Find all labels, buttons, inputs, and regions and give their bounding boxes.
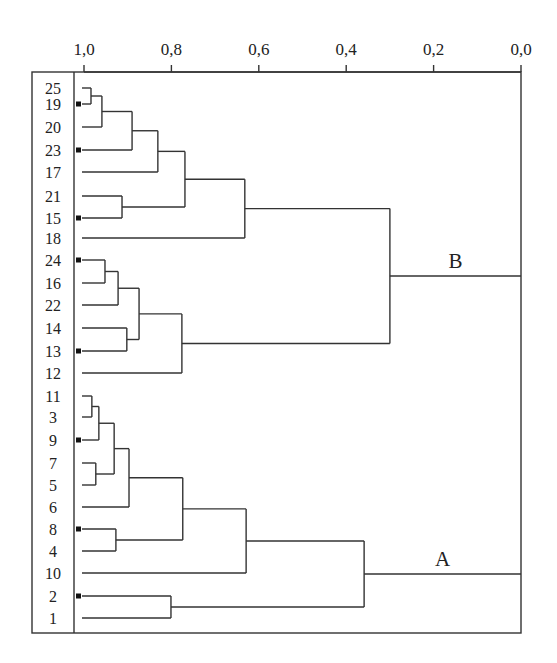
merge-m1 <box>82 88 91 104</box>
merge-m15 <box>82 463 96 485</box>
leaf-label: 25 <box>45 80 61 97</box>
leaf-label: 18 <box>45 230 61 247</box>
leaf-marker-icon <box>76 349 81 354</box>
leaf-label: 21 <box>45 188 61 205</box>
axis-tick-label: 0,4 <box>336 40 358 59</box>
merge-m7 <box>82 179 245 238</box>
leaf-label: 19 <box>45 96 61 113</box>
leaf-label: 13 <box>45 343 61 360</box>
leaf-label: 1 <box>49 610 57 627</box>
leaf-label: 12 <box>45 365 61 382</box>
leaf-label: 4 <box>49 543 57 560</box>
merge-B <box>182 209 390 344</box>
leaf-label: 14 <box>45 320 61 337</box>
merge-m3 <box>82 112 132 151</box>
merge-m17 <box>82 449 129 507</box>
merge-m21 <box>82 596 171 618</box>
cluster-label-B: B <box>448 249 462 273</box>
merge-m11 <box>118 288 139 339</box>
leaf-label: 11 <box>45 388 60 405</box>
merge-m19 <box>116 478 183 540</box>
leaf-label: 23 <box>45 142 61 159</box>
axis-tick-label: 0,8 <box>161 40 182 59</box>
merge-A <box>171 541 364 607</box>
merge-m14 <box>82 407 99 441</box>
leaf-label: 16 <box>45 275 61 292</box>
leaf-label: 17 <box>45 164 61 181</box>
cluster-label-A: A <box>435 547 451 571</box>
merge-m13 <box>82 396 92 417</box>
leaf-label: 8 <box>49 521 57 538</box>
dendrogram-tree <box>82 88 521 618</box>
leaf-label: 10 <box>45 565 61 582</box>
merge-m6 <box>122 151 185 207</box>
leaf-labels: 2519202317211518241622141312113975684102… <box>45 80 81 627</box>
axis-tick-label: 0,0 <box>510 40 531 59</box>
merge-m4 <box>82 131 158 172</box>
merge-m20 <box>82 509 246 573</box>
cluster-labels: BA <box>435 249 462 571</box>
leaf-label: 15 <box>45 210 61 227</box>
leaf-marker-icon <box>76 594 81 599</box>
axis-tick-label: 1,0 <box>73 40 94 59</box>
leaf-label: 9 <box>49 432 57 449</box>
merge-m5 <box>82 196 122 218</box>
axis-tick-label: 0,6 <box>248 40 269 59</box>
merge-m18 <box>82 529 116 551</box>
merge-m10 <box>82 328 127 351</box>
leaf-marker-icon <box>76 148 81 153</box>
leaf-marker-icon <box>76 216 81 221</box>
top-axis: 1,00,80,60,40,20,0 <box>73 40 531 72</box>
leaf-label: 24 <box>45 252 61 269</box>
leaf-label: 3 <box>49 409 57 426</box>
leaf-marker-icon <box>76 102 81 107</box>
merge-m12 <box>82 314 182 373</box>
merge-m9 <box>82 272 118 306</box>
merge-m8 <box>82 260 105 283</box>
leaf-label: 7 <box>49 455 57 472</box>
leaf-marker-icon <box>76 527 81 532</box>
dendrogram-chart: 1,00,80,60,40,20,0 251920231721151824162… <box>0 0 557 663</box>
leaf-label: 6 <box>49 499 57 516</box>
leaf-label: 2 <box>49 588 57 605</box>
leaf-label: 22 <box>45 297 61 314</box>
leaf-label: 20 <box>45 119 61 136</box>
leaf-marker-icon <box>76 258 81 263</box>
axis-tick-label: 0,2 <box>423 40 444 59</box>
merge-m2 <box>82 96 102 127</box>
leaf-label: 5 <box>49 477 57 494</box>
leaf-marker-icon <box>76 438 81 443</box>
